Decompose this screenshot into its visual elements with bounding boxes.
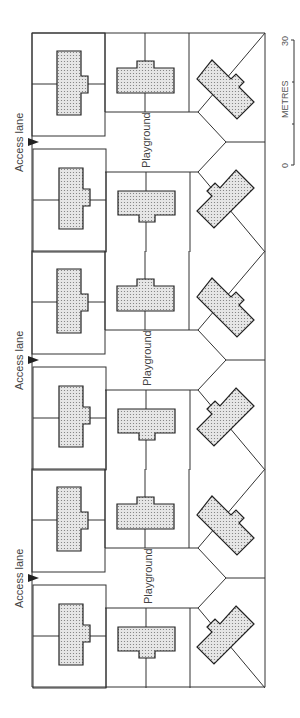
arrow-icon bbox=[28, 356, 39, 364]
access-lane-label: Access lane bbox=[13, 549, 25, 608]
house bbox=[197, 170, 254, 228]
access-lane-label: Access lane bbox=[13, 113, 25, 172]
access-lane-marker: Access lane bbox=[13, 113, 39, 172]
house bbox=[117, 61, 174, 93]
access-lane-marker: Access lane bbox=[13, 549, 39, 608]
house bbox=[118, 191, 175, 222]
access-lane-marker: Access lane bbox=[13, 331, 39, 390]
playground-label: Playground bbox=[142, 548, 154, 604]
scale-start-label: 0 bbox=[280, 163, 290, 168]
house bbox=[59, 168, 90, 229]
scale-unit-label: METRES bbox=[280, 80, 290, 118]
house bbox=[197, 60, 254, 119]
access-lane-label: Access lane bbox=[13, 331, 25, 390]
arrow-icon bbox=[28, 574, 39, 582]
arrow-icon bbox=[28, 138, 39, 146]
scale-bar: 0 30 METRES bbox=[280, 36, 294, 168]
playground-label: Playground bbox=[141, 330, 153, 386]
house bbox=[57, 51, 88, 115]
site-plan-diagram: Access lane Access lane Access lane Play… bbox=[0, 0, 300, 718]
playground-label: Playground bbox=[140, 112, 152, 168]
scale-end-label: 30 bbox=[280, 36, 290, 46]
